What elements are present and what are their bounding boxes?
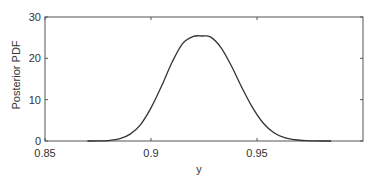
x-tick-label: 0.95: [246, 147, 267, 159]
y-tick-label: 0: [35, 135, 41, 147]
x-tick-label: 0.9: [143, 147, 158, 159]
y-tick-label: 30: [29, 11, 41, 23]
y-tick-label: 10: [29, 94, 41, 106]
y-axis-ticks: 0102030: [29, 11, 363, 147]
posterior-pdf-chart: 0.850.90.95 0102030 y Posterior PDF: [0, 0, 375, 184]
x-tick-label: 0.85: [34, 147, 55, 159]
x-axis-ticks: 0.850.90.95: [34, 17, 267, 159]
y-tick-label: 20: [29, 52, 41, 64]
pdf-curve: [87, 36, 331, 141]
x-axis-label: y: [196, 163, 202, 175]
plot-area: 0.850.90.95 0102030: [29, 11, 363, 159]
y-axis-label: Posterior PDF: [10, 40, 22, 109]
